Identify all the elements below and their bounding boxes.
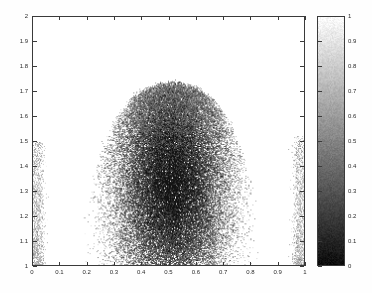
y-tick-label: 1.7 — [6, 88, 28, 95]
x-tick-label: 0.7 — [219, 269, 227, 276]
y-tick-right — [300, 41, 304, 42]
colorbar-tick-label: 1 — [348, 13, 351, 20]
colorbar-tick-label: 0.8 — [348, 63, 356, 70]
colorbar-tick-label: 0.6 — [348, 113, 356, 120]
x-tick-top — [169, 16, 170, 20]
x-tick-top — [223, 16, 224, 20]
y-tick — [33, 241, 37, 242]
y-tick-label: 1.4 — [6, 163, 28, 170]
colorbar-tick — [318, 66, 322, 67]
y-tick-right — [300, 266, 304, 267]
y-tick-label: 1.1 — [6, 238, 28, 245]
colorbar-tick — [318, 241, 322, 242]
y-tick-right — [300, 241, 304, 242]
y-tick-right — [300, 191, 304, 192]
scatter-plot-axes — [32, 16, 305, 266]
x-tick-label: 0.2 — [82, 269, 90, 276]
y-tick-right — [300, 16, 304, 17]
y-tick — [33, 91, 37, 92]
x-tick-top — [278, 16, 279, 20]
y-tick — [33, 16, 37, 17]
x-tick — [223, 262, 224, 266]
y-tick-label: 1.8 — [6, 63, 28, 70]
figure-canvas: 00.10.20.30.40.50.60.70.80.91 11.11.21.3… — [0, 0, 372, 293]
x-tick-top — [87, 16, 88, 20]
y-tick-label: 1.6 — [6, 113, 28, 120]
y-tick — [33, 216, 37, 217]
y-tick-right — [300, 91, 304, 92]
x-tick — [141, 262, 142, 266]
y-tick-label: 1.3 — [6, 188, 28, 195]
x-tick-label: 0.1 — [55, 269, 63, 276]
y-tick-right — [300, 66, 304, 67]
y-tick — [33, 66, 37, 67]
y-tick-label: 1.9 — [6, 38, 28, 45]
y-tick-label: 2 — [6, 13, 28, 20]
x-tick-label: 1 — [303, 269, 306, 276]
x-tick-label: 0.8 — [246, 269, 254, 276]
colorbar-tick-label: 0.1 — [348, 238, 356, 245]
colorbar-tick — [318, 166, 322, 167]
colorbar-tick-label: 0.2 — [348, 213, 356, 220]
y-tick — [33, 41, 37, 42]
x-tick-top — [305, 16, 306, 20]
y-tick — [33, 116, 37, 117]
x-tick — [59, 262, 60, 266]
y-tick-right — [300, 216, 304, 217]
colorbar-tick — [318, 266, 322, 267]
x-tick — [250, 262, 251, 266]
colorbar-tick — [318, 216, 322, 217]
x-tick-label: 0 — [30, 269, 33, 276]
colorbar-tick — [318, 191, 322, 192]
colorbar-tick — [318, 91, 322, 92]
x-tick-label: 0.5 — [164, 269, 172, 276]
colorbar-tick — [318, 16, 322, 17]
x-tick-label: 0.3 — [110, 269, 118, 276]
colorbar-tick-label: 0 — [348, 263, 351, 270]
x-tick — [87, 262, 88, 266]
x-tick-top — [141, 16, 142, 20]
y-tick-right — [300, 116, 304, 117]
y-tick-label: 1.5 — [6, 138, 28, 145]
colorbar-tick-label: 0.9 — [348, 38, 356, 45]
y-tick-right — [300, 166, 304, 167]
x-tick-top — [114, 16, 115, 20]
y-tick-label: 1.2 — [6, 213, 28, 220]
colorbar-tick — [318, 141, 322, 142]
y-tick-label: 1 — [6, 263, 28, 270]
x-tick-top — [250, 16, 251, 20]
colorbar-tick — [318, 41, 322, 42]
x-tick — [305, 262, 306, 266]
colorbar-tick-label: 0.4 — [348, 163, 356, 170]
scatter-point-cloud — [33, 17, 304, 265]
y-tick-right — [300, 141, 304, 142]
y-tick — [33, 141, 37, 142]
colorbar-tick-label: 0.5 — [348, 138, 356, 145]
colorbar-tick-label: 0.7 — [348, 88, 356, 95]
x-tick-top — [59, 16, 60, 20]
colorbar-tick — [318, 116, 322, 117]
x-tick — [278, 262, 279, 266]
y-tick — [33, 191, 37, 192]
x-tick-label: 0.9 — [274, 269, 282, 276]
x-tick — [196, 262, 197, 266]
x-tick-top — [196, 16, 197, 20]
x-tick-label: 0.6 — [192, 269, 200, 276]
x-tick — [169, 262, 170, 266]
x-tick — [114, 262, 115, 266]
y-tick — [33, 266, 37, 267]
y-tick — [33, 166, 37, 167]
x-tick-label: 0.4 — [137, 269, 145, 276]
colorbar-tick-label: 0.3 — [348, 188, 356, 195]
